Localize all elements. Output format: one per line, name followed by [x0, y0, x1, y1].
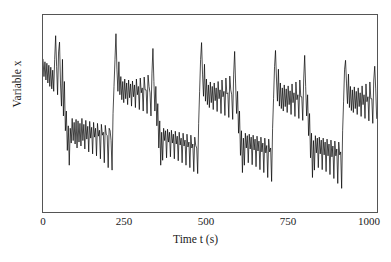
x-axis-title: Time t (s) [0, 233, 391, 245]
x-tick-label-0: 0 [23, 216, 63, 227]
chart-figure: Variable x 1 0 -1 -2 -3 0 250 500 750 10… [0, 0, 391, 262]
plot-area [42, 14, 378, 213]
x-tick-label-1: 250 [104, 216, 144, 227]
y-axis-title: Variable x [11, 29, 23, 139]
series-line-variable-x [43, 34, 377, 189]
x-tick-label-3: 750 [268, 216, 308, 227]
x-tick-label-4: 1000 [349, 216, 389, 227]
x-tick-label-2: 500 [186, 216, 226, 227]
time-series-plot [43, 15, 377, 212]
